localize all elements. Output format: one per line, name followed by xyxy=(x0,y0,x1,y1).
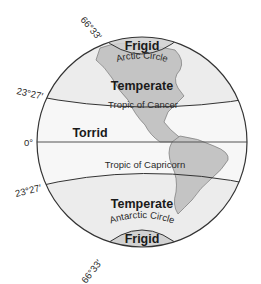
globe-diagram: Frigid Temperate Torrid Temperate Frigid… xyxy=(0,0,261,284)
climate-zones-diagram: Frigid Temperate Torrid Temperate Frigid… xyxy=(0,0,261,284)
south-23-degree-label: 23°27′ xyxy=(14,182,43,199)
tropic-of-capricorn-label: Tropic of Capricorn xyxy=(105,159,185,170)
north-23-degree-label: 23°27′ xyxy=(16,85,45,101)
north-temperate-label: Temperate xyxy=(111,79,173,93)
south-66-degree-label: 66°33′ xyxy=(79,257,104,284)
equator-degree-label: 0° xyxy=(24,137,33,148)
north-66-degree-label: 66°33′ xyxy=(78,14,104,42)
tropic-of-cancer-label: Tropic of Cancer xyxy=(108,99,178,110)
south-frigid-label: Frigid xyxy=(125,232,160,246)
torrid-label: Torrid xyxy=(72,126,107,140)
south-temperate-label: Temperate xyxy=(111,197,173,211)
